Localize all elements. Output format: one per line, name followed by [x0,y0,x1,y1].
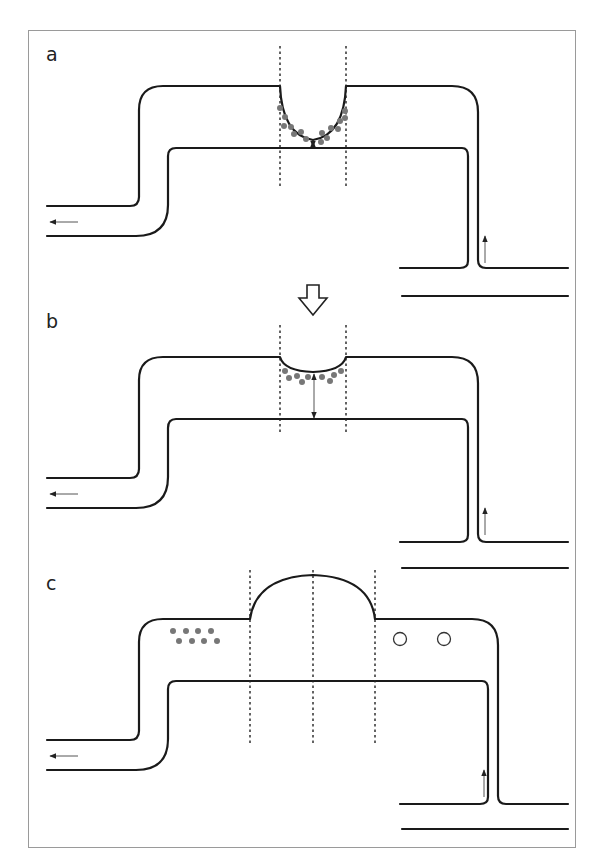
inner-channel-wall [47,419,468,542]
diagram-canvas [0,0,607,868]
outer-channel-wall [47,357,568,542]
particle-cluster-filled [170,628,220,644]
particle-cluster [282,368,344,385]
transition-down-arrow-icon [299,285,327,315]
panel-a-diagram [47,46,568,296]
inner-channel-wall [47,148,468,268]
panel-b-diagram [47,325,568,568]
panel-c-diagram [47,570,568,829]
outer-channel-wall [47,86,568,268]
open-circle-particles [394,633,451,646]
inner-channel-wall [47,681,488,804]
